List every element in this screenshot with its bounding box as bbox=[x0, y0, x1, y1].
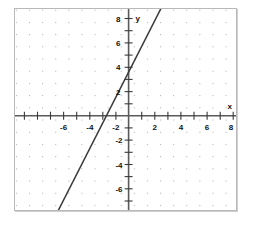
x-tick-label: 2 bbox=[153, 123, 158, 132]
x-tick-label: 4 bbox=[179, 123, 184, 132]
y-tick-label: 6 bbox=[116, 39, 121, 48]
x-tick-label: 8 bbox=[229, 123, 234, 132]
x-tick-label: 6 bbox=[205, 123, 210, 132]
y-axis-label: y bbox=[136, 14, 141, 23]
y-tick-label: -4 bbox=[115, 161, 123, 170]
y-tick-label: 4 bbox=[116, 63, 121, 72]
x-tick-label: -6 bbox=[60, 123, 68, 132]
y-tick-label: 8 bbox=[116, 15, 121, 24]
x-axis-label: x bbox=[228, 102, 233, 111]
y-tick-label: -2 bbox=[115, 136, 123, 145]
grid-dots bbox=[15, 9, 236, 210]
plot-area: -6 -4 -2 2 4 6 8 8 6 4 2 -2 -4 -6 y x bbox=[15, 9, 236, 210]
coordinate-plane: -6 -4 -2 2 4 6 8 8 6 4 2 -2 -4 -6 y x bbox=[15, 9, 236, 210]
y-tick-label: -6 bbox=[115, 185, 123, 194]
chart-figure: -6 -4 -2 2 4 6 8 8 6 4 2 -2 -4 -6 y x bbox=[0, 0, 255, 226]
x-tick-label: -4 bbox=[86, 123, 94, 132]
plot-frame: -6 -4 -2 2 4 6 8 8 6 4 2 -2 -4 -6 y x bbox=[14, 8, 237, 211]
x-tick-label: -2 bbox=[112, 123, 120, 132]
y-tick-label: 2 bbox=[116, 88, 121, 97]
